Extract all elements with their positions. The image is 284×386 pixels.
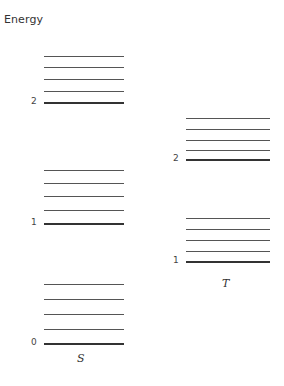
state-label: T	[222, 277, 229, 290]
sublevel-line	[186, 218, 270, 219]
sublevel-line	[186, 118, 270, 119]
sublevel-line	[186, 251, 270, 252]
level-base-line	[186, 261, 270, 263]
sublevel-line	[44, 284, 124, 285]
sublevel-line	[186, 240, 270, 241]
sublevel-line	[44, 67, 124, 68]
level-number: 0	[31, 337, 37, 347]
level-number: 2	[173, 153, 179, 163]
sublevel-line	[44, 329, 124, 330]
level-number: 1	[31, 217, 37, 227]
sublevel-line	[44, 314, 124, 315]
sublevel-line	[44, 183, 124, 184]
sublevel-line	[44, 91, 124, 92]
sublevel-line	[44, 210, 124, 211]
axis-title: Energy	[4, 13, 43, 26]
sublevel-line	[44, 79, 124, 80]
level-number: 2	[31, 96, 37, 106]
sublevel-line	[44, 299, 124, 300]
sublevel-line	[44, 170, 124, 171]
level-base-line	[186, 159, 270, 161]
level-base-line	[44, 102, 124, 104]
sublevel-line	[186, 129, 270, 130]
sublevel-line	[186, 150, 270, 151]
sublevel-line	[186, 140, 270, 141]
sublevel-line	[44, 196, 124, 197]
level-base-line	[44, 343, 124, 345]
sublevel-line	[44, 56, 124, 57]
level-number: 1	[173, 255, 179, 265]
sublevel-line	[186, 229, 270, 230]
state-label: S	[77, 352, 85, 365]
level-base-line	[44, 223, 124, 225]
